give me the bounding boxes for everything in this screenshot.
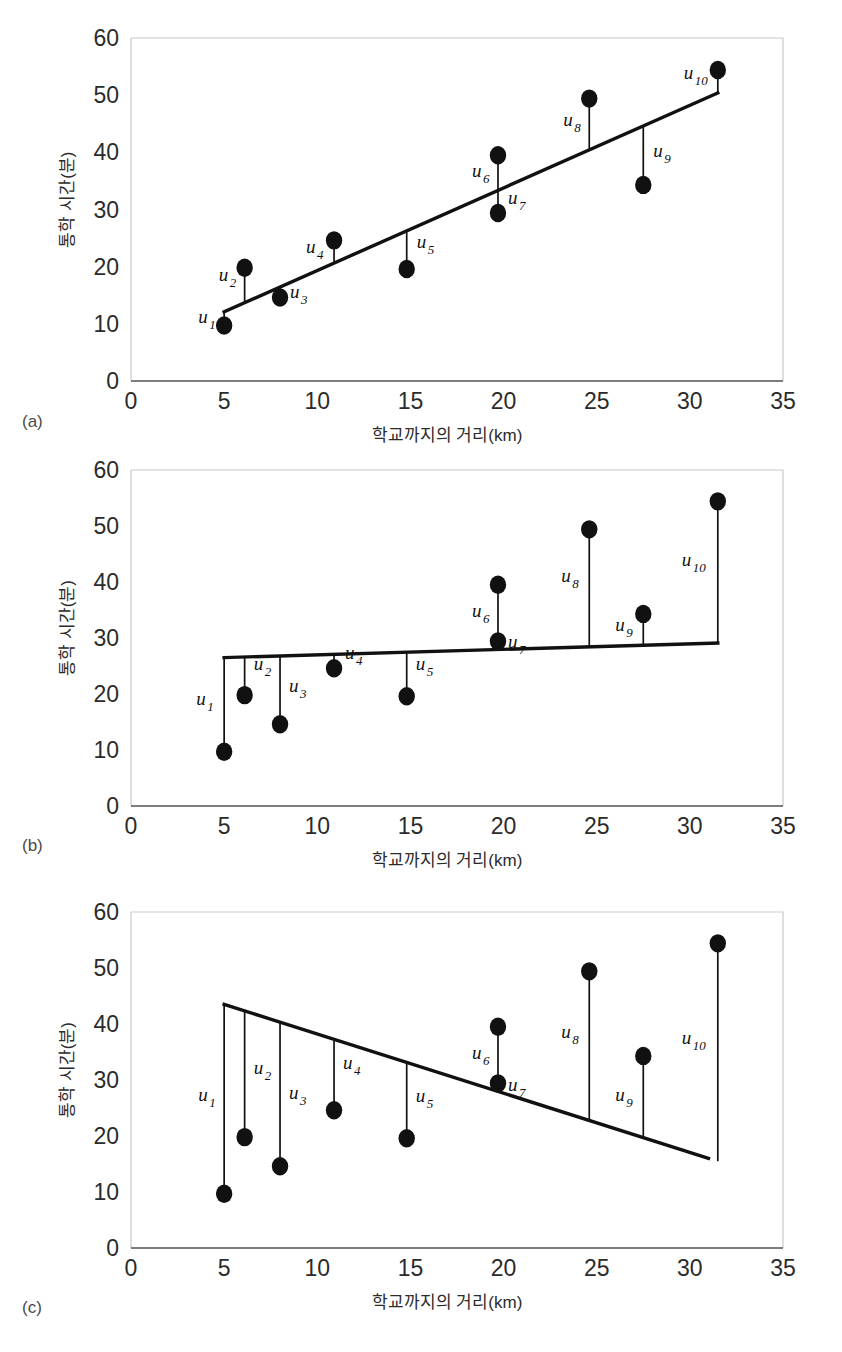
- y-tick-label: 0: [106, 368, 119, 394]
- data-point-u2: [236, 1128, 252, 1146]
- residual-label-base: u: [198, 1084, 208, 1105]
- residual-label-base: u: [417, 231, 427, 252]
- residual-label-base: u: [472, 600, 482, 621]
- x-tick-label: 5: [218, 1255, 231, 1281]
- residual-label-base: u: [306, 236, 316, 257]
- residual-label-subscript: 2: [230, 275, 237, 290]
- data-point-u5: [399, 260, 415, 278]
- residual-label-u7: u7: [508, 631, 526, 657]
- data-point-u6: [490, 146, 506, 164]
- y-axis-title: 통학 시간(분): [58, 151, 77, 247]
- y-tick-label: 50: [93, 82, 119, 108]
- data-point-u6: [490, 1018, 506, 1036]
- residual-label-u4: u4: [345, 642, 363, 668]
- x-tick-label: 0: [125, 813, 138, 839]
- residual-label-base: u: [345, 642, 355, 663]
- x-tick-label: 20: [491, 813, 517, 839]
- x-tick-label: 20: [491, 1255, 517, 1281]
- residual-label-u5: u5: [417, 231, 435, 257]
- residual-label-u8: u8: [563, 109, 581, 135]
- residual-label-subscript: 9: [626, 1095, 633, 1110]
- y-axis-title-group: 통학 시간(분): [58, 580, 77, 676]
- x-axis-title: 학교까지의 거리(km): [372, 851, 523, 870]
- x-tick-label: 0: [125, 1255, 138, 1281]
- data-point-u7: [490, 204, 506, 222]
- data-point-u8: [581, 89, 597, 107]
- y-axis-title: 통학 시간(분): [58, 1022, 77, 1118]
- data-point-u8: [581, 520, 597, 538]
- scatter-chart-b: 010203040506005101520253035학교까지의 거리(km)통…: [0, 450, 842, 880]
- fit-line: [224, 643, 718, 658]
- residual-label-u10: u10: [682, 549, 707, 575]
- residual-label-subscript: 7: [519, 1085, 526, 1100]
- residual-label-base: u: [682, 549, 692, 570]
- y-tick-label: 40: [93, 569, 119, 595]
- residual-label-u6: u6: [472, 160, 490, 186]
- residual-label-base: u: [198, 306, 208, 327]
- residual-label-u10: u10: [684, 62, 709, 88]
- y-tick-label: 60: [93, 25, 119, 51]
- data-point-u10: [710, 61, 726, 79]
- x-tick-label: 10: [304, 1255, 330, 1281]
- residual-label-base: u: [416, 653, 426, 674]
- data-point-u3: [272, 715, 288, 733]
- chart-panel-a: 010203040506005101520253035학교까지의 거리(km)통…: [0, 0, 842, 450]
- data-point-u5: [399, 1129, 415, 1147]
- x-tick-label: 10: [304, 388, 330, 414]
- residual-label-base: u: [561, 1021, 571, 1042]
- residual-label-u3: u3: [289, 675, 307, 701]
- x-tick-label: 20: [491, 388, 517, 414]
- y-tick-label: 30: [93, 1067, 119, 1093]
- x-tick-label: 25: [584, 388, 610, 414]
- residual-label-u3: u3: [289, 1082, 307, 1108]
- residual-label-u10: u10: [682, 1027, 707, 1053]
- data-point-u6: [490, 576, 506, 594]
- residual-label-u5: u5: [416, 1085, 434, 1111]
- residual-label-base: u: [682, 1027, 692, 1048]
- residual-label-base: u: [472, 160, 482, 181]
- residual-label-subscript: 4: [317, 247, 324, 262]
- residual-label-base: u: [343, 1052, 353, 1073]
- residual-label-u1: u1: [198, 1084, 216, 1110]
- residual-label-base: u: [219, 264, 229, 285]
- residual-label-u4: u4: [306, 236, 324, 262]
- residual-label-subscript: 10: [693, 560, 707, 575]
- data-point-u9: [635, 1047, 651, 1065]
- y-axis-title-group: 통학 시간(분): [58, 1022, 77, 1118]
- x-tick-label: 15: [398, 388, 424, 414]
- residual-label-base: u: [196, 688, 206, 709]
- residual-label-base: u: [508, 1074, 518, 1095]
- residual-label-subscript: 6: [483, 611, 490, 626]
- residual-label-subscript: 5: [427, 1096, 434, 1111]
- residual-label-base: u: [289, 675, 299, 696]
- y-tick-label: 0: [106, 793, 119, 819]
- residual-label-subscript: 5: [428, 242, 435, 257]
- data-point-u4: [326, 231, 342, 249]
- residual-label-subscript: 2: [265, 1068, 272, 1083]
- residual-label-subscript: 8: [572, 576, 579, 591]
- y-tick-label: 10: [93, 737, 119, 763]
- x-tick-label: 25: [584, 1255, 610, 1281]
- y-axis-title-group: 통학 시간(분): [58, 151, 77, 247]
- residual-label-subscript: 1: [209, 1095, 216, 1110]
- residual-label-subscript: 8: [572, 1032, 579, 1047]
- y-tick-label: 40: [93, 1011, 119, 1037]
- data-point-u7: [490, 632, 506, 650]
- chart-panel-c: 010203040506005101520253035학교까지의 거리(km)통…: [0, 880, 842, 1352]
- data-point-u9: [635, 176, 651, 194]
- x-tick-label: 35: [770, 1255, 796, 1281]
- residual-label-u8: u8: [561, 1021, 579, 1047]
- residual-label-base: u: [416, 1085, 426, 1106]
- residual-label-subscript: 9: [626, 625, 633, 640]
- x-tick-label: 30: [677, 813, 703, 839]
- y-tick-label: 10: [93, 311, 119, 337]
- residual-label-u9: u9: [653, 140, 671, 166]
- y-tick-label: 60: [93, 457, 119, 483]
- residual-label-u6: u6: [472, 600, 490, 626]
- residual-label-subscript: 1: [207, 699, 214, 714]
- y-tick-label: 50: [93, 513, 119, 539]
- y-tick-label: 10: [93, 1179, 119, 1205]
- x-tick-label: 35: [770, 813, 796, 839]
- x-tick-label: 35: [770, 388, 796, 414]
- residual-label-base: u: [508, 631, 518, 652]
